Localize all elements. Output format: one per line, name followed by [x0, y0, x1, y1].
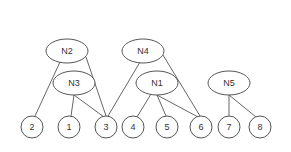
edge-n1-6: [157, 95, 198, 117]
node-label: N4: [137, 46, 149, 56]
node-label: N2: [61, 46, 73, 56]
leaf-nodes-group: 21345678: [21, 116, 271, 138]
tree-diagram: N2N4N3N1N5 21345678: [0, 0, 291, 152]
internal-nodes-group: N2N4N3N1N5: [46, 39, 250, 95]
leaf-label: 3: [103, 122, 108, 132]
edge-n5-8: [229, 95, 256, 117]
leaf-5: 5: [156, 116, 178, 138]
node-n3: N3: [53, 71, 95, 95]
leaf-8: 8: [249, 116, 271, 138]
leaf-7: 7: [218, 116, 240, 138]
node-n2: N2: [46, 39, 88, 63]
leaf-2: 2: [21, 116, 43, 138]
node-label: N3: [68, 78, 80, 88]
edge-n1-5: [157, 95, 166, 116]
leaf-label: 6: [198, 122, 203, 132]
leaf-label: 2: [29, 122, 34, 132]
node-label: N1: [151, 78, 163, 88]
node-n1: N1: [136, 71, 178, 95]
leaf-label: 5: [164, 122, 169, 132]
leaf-4: 4: [122, 116, 144, 138]
leaf-label: 7: [226, 122, 231, 132]
leaf-3: 3: [95, 116, 117, 138]
node-n4: N4: [122, 39, 164, 63]
edge-n3-1: [71, 95, 74, 116]
node-n5: N5: [208, 71, 250, 95]
leaf-6: 6: [190, 116, 212, 138]
leaf-label: 4: [130, 122, 135, 132]
leaf-label: 1: [66, 122, 71, 132]
leaf-label: 8: [257, 122, 262, 132]
edge-n4-3: [108, 62, 140, 116]
edge-n1-4: [137, 94, 151, 117]
edge-n3-3: [74, 95, 104, 117]
leaf-1: 1: [58, 116, 80, 138]
node-label: N5: [223, 78, 235, 88]
